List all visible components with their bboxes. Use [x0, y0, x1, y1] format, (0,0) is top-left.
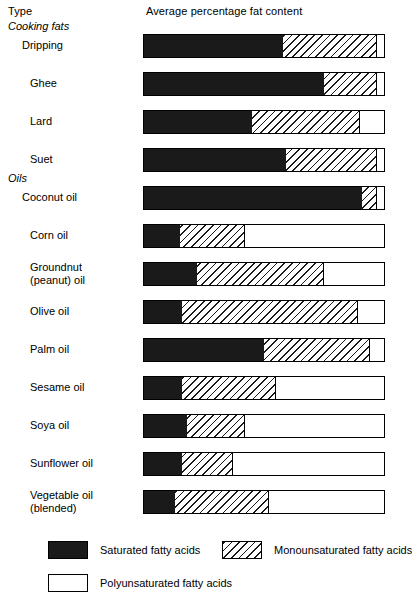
bar-segment-sat	[144, 415, 187, 437]
bar-segment-sat	[144, 73, 324, 95]
stacked-bar	[143, 224, 385, 248]
legend-swatch-poly	[48, 574, 88, 592]
bar-segment-mono	[324, 73, 377, 95]
row-label: Coconut oil	[22, 191, 77, 204]
row-label: Corn oil	[30, 229, 68, 242]
bar-segment-mono	[180, 225, 245, 247]
bar-segment-mono	[182, 301, 357, 323]
bar-segment-poly	[377, 149, 384, 171]
bar-segment-sat	[144, 301, 182, 323]
legend-swatch-sat	[48, 541, 88, 559]
stacked-bar	[143, 262, 385, 286]
bar-segment-mono	[286, 149, 377, 171]
bar-segment-poly	[370, 339, 384, 361]
row-label-line: Ghee	[30, 77, 57, 90]
stacked-bar	[143, 186, 385, 210]
bar-segment-poly	[358, 301, 384, 323]
bar-segment-mono	[187, 415, 245, 437]
bar-segment-mono	[197, 263, 324, 285]
bar-segment-poly	[324, 263, 384, 285]
bar-segment-poly	[233, 453, 384, 475]
bar-segment-poly	[377, 35, 384, 57]
group-heading: Oils	[8, 172, 27, 184]
row-label: Palm oil	[30, 343, 69, 356]
bar-segment-poly	[377, 187, 384, 209]
legend-label-sat: Saturated fatty acids	[100, 541, 200, 559]
bar-segment-poly	[377, 73, 384, 95]
row-label-line: Dripping	[22, 39, 63, 52]
bar-segment-mono	[264, 339, 370, 361]
row-label-line: Vegetable oil	[30, 489, 93, 502]
bar-segment-mono	[362, 187, 376, 209]
stacked-bar	[143, 300, 385, 324]
stacked-bar	[143, 490, 385, 514]
bar-segment-sat	[144, 491, 175, 513]
row-label: Soya oil	[30, 419, 69, 432]
column-header-average-percentage: Average percentage fat content	[146, 5, 302, 17]
bar-segment-mono	[182, 377, 276, 399]
legend-swatch-mono	[222, 541, 262, 559]
row-label: Vegetable oil(blended)	[30, 489, 93, 515]
bar-segment-sat	[144, 149, 286, 171]
legend-label-poly: Polyunsaturated fatty acids	[100, 574, 232, 592]
row-label: Groundnut(peanut) oil	[30, 261, 85, 287]
row-label-line: Coconut oil	[22, 191, 77, 204]
stacked-bar	[143, 414, 385, 438]
row-label: Dripping	[22, 39, 63, 52]
row-label-line: Olive oil	[30, 305, 69, 318]
bar-segment-mono	[283, 35, 377, 57]
bar-segment-sat	[144, 339, 264, 361]
bar-segment-poly	[276, 377, 384, 399]
bar-segment-poly	[245, 415, 384, 437]
row-label-line: Lard	[30, 115, 52, 128]
row-label: Suet	[30, 153, 53, 166]
group-heading: Cooking fats	[8, 20, 69, 32]
stacked-bar	[143, 110, 385, 134]
row-label: Lard	[30, 115, 52, 128]
bar-segment-mono	[182, 453, 232, 475]
stacked-bar	[143, 376, 385, 400]
bar-segment-sat	[144, 263, 197, 285]
bar-segment-mono	[252, 111, 360, 133]
row-label-line: Palm oil	[30, 343, 69, 356]
row-label-line: Suet	[30, 153, 53, 166]
bar-segment-poly	[269, 491, 384, 513]
bar-segment-sat	[144, 111, 252, 133]
column-header-type: Type	[8, 5, 32, 17]
row-label: Olive oil	[30, 305, 69, 318]
row-label: Ghee	[30, 77, 57, 90]
stacked-bar	[143, 72, 385, 96]
row-label-line: Groundnut	[30, 261, 85, 274]
row-label-line: (peanut) oil	[30, 274, 85, 287]
bar-segment-sat	[144, 453, 182, 475]
stacked-bar	[143, 338, 385, 362]
row-label-line: Sesame oil	[30, 381, 84, 394]
bar-segment-sat	[144, 187, 362, 209]
row-label-line: Sunflower oil	[30, 457, 93, 470]
bar-segment-sat	[144, 225, 180, 247]
row-label-line: Soya oil	[30, 419, 69, 432]
bar-segment-poly	[360, 111, 384, 133]
stacked-bar	[143, 34, 385, 58]
bar-segment-sat	[144, 35, 283, 57]
row-label: Sesame oil	[30, 381, 84, 394]
stacked-bar	[143, 148, 385, 172]
stacked-bar	[143, 452, 385, 476]
row-label-line: (blended)	[30, 502, 93, 515]
bar-segment-sat	[144, 377, 182, 399]
row-label: Sunflower oil	[30, 457, 93, 470]
row-label-line: Corn oil	[30, 229, 68, 242]
bar-segment-poly	[245, 225, 384, 247]
bar-segment-mono	[175, 491, 269, 513]
legend-label-mono: Monounsaturated fatty acids	[274, 541, 412, 559]
